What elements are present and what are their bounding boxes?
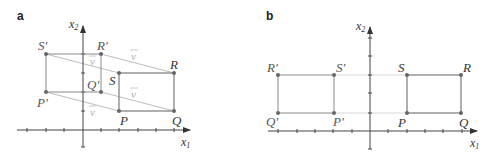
label-s: S [398,60,405,75]
label-q-prime: Q' [266,114,278,129]
x2-axis-label: x2 [68,17,78,32]
panel-label-b: b [266,9,273,23]
point-q-prime [99,90,103,94]
vector-label: v [131,88,136,100]
label-q: Q [459,115,469,130]
vector-r-to-r-prime [101,54,174,73]
point-s [405,73,409,77]
point-s [117,71,121,75]
original-rectangle-a [119,73,174,111]
vector-label: v [131,50,136,62]
x1-axis-label: x1 [180,135,190,150]
axes-b: x1 x2 [268,19,479,151]
label-q: Q [172,113,182,128]
label-s-prime: S' [38,38,48,53]
x1-axis-label: x1 [469,136,479,151]
label-r-prime: R' [96,38,108,53]
label-r: R [169,57,178,72]
vector-q-to-q-prime [101,92,174,111]
vector-label: v [90,55,95,67]
axes-a: x1 x2 [17,17,190,150]
label-r-prime: R' [266,60,278,75]
x2-axis-label: x2 [355,19,365,34]
panel-b: b [266,9,479,151]
label-p-prime: P' [36,95,48,110]
panel-label-a: a [17,9,24,23]
panel-a: a [17,9,190,150]
label-s: S [109,73,116,88]
label-p: P [397,115,406,130]
image-rectangle-b [278,75,334,113]
label-q-prime: Q' [87,77,99,92]
label-s-prime: S' [336,60,346,75]
point-p-prime [44,90,48,94]
figure: a [0,0,496,155]
label-p-prime: P' [332,114,344,129]
label-r: R [462,60,471,75]
vector-label: v [90,106,95,118]
original-rectangle-b [407,75,461,113]
label-p: P [119,113,128,128]
